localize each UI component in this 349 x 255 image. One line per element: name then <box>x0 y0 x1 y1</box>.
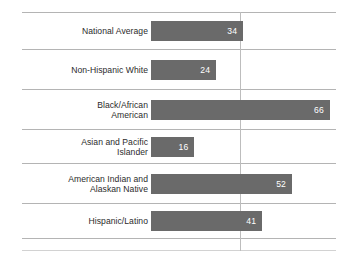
bar: 41 <box>151 211 262 231</box>
bar: 16 <box>151 137 194 157</box>
category-label: National Average <box>82 25 148 35</box>
bar: 66 <box>151 100 330 120</box>
bar-value-label: 52 <box>276 179 286 189</box>
horizontal-bar-chart: National Average 34 Non-Hispanic White 2… <box>0 0 349 255</box>
gridline-horizontal <box>22 12 336 13</box>
gridline-horizontal <box>22 49 336 50</box>
category-label: American Indian and Alaskan Native <box>68 173 148 194</box>
bar: 52 <box>151 174 292 194</box>
bar: 34 <box>151 21 243 41</box>
bar: 24 <box>151 60 216 80</box>
bar-value-label: 24 <box>200 65 210 75</box>
bar-value-label: 34 <box>227 26 237 36</box>
category-label: Asian and Pacific Islander <box>81 136 148 157</box>
bar-value-label: 66 <box>314 105 324 115</box>
gridline-horizontal-faint <box>22 250 336 251</box>
gridline-horizontal <box>22 163 336 164</box>
bar-value-label: 41 <box>246 216 256 226</box>
gridline-horizontal <box>22 89 336 90</box>
category-label: Non-Hispanic White <box>71 64 148 74</box>
category-label: Black/African American <box>97 99 148 120</box>
gridline-horizontal <box>22 129 336 130</box>
gridline-horizontal <box>22 238 336 239</box>
category-label: Hispanic/Latino <box>88 215 148 225</box>
gridline-horizontal <box>22 203 336 204</box>
bar-value-label: 16 <box>179 142 189 152</box>
